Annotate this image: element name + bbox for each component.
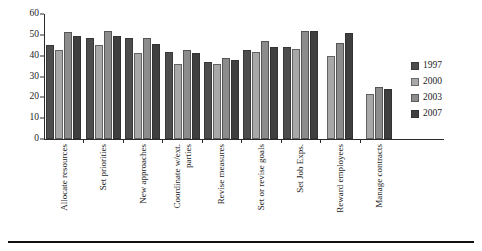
bar [213,64,221,139]
bar [292,49,300,139]
x-axis-label: Allocate resources [58,144,69,211]
x-axis-label-cell: Coordinate w/ext.parties [162,142,201,237]
bar [113,36,121,139]
plot-area: 0102030405060 [44,14,399,139]
bar-chart: 0102030405060 Allocate resourcesSet prio… [0,0,482,251]
bar [165,52,173,140]
bar [336,43,344,139]
legend-item: 2000 [411,74,473,90]
x-axis-line [44,139,444,140]
x-axis-label: Manage contracts [374,144,385,208]
bar-group [202,14,241,139]
bar-group [162,14,201,139]
chart-legend: 1997200020032007 [411,58,473,122]
x-axis-label-cell: Revise measures [202,142,241,237]
bar [204,62,212,139]
bottom-rule [8,241,474,243]
bar-group [360,14,399,139]
bar [222,58,230,139]
bar [243,50,251,139]
bar [366,94,374,139]
legend-item: 2003 [411,90,473,106]
bar-group [44,14,83,139]
bar [327,56,335,139]
bar [301,31,309,139]
bar-group [320,14,359,139]
x-axis-labels: Allocate resourcesSet prioritiesNew appr… [44,142,399,237]
legend-swatch-icon [411,62,419,70]
x-axis-label-cell: Set priorities [83,142,122,237]
x-axis-label-cell: Manage contracts [360,142,399,237]
bar [231,60,239,139]
bar [384,89,392,139]
bar [104,31,112,139]
bar [310,31,318,139]
x-axis-label: Set or revise goals [256,144,267,210]
x-axis-label: Revise measures [216,144,227,204]
bar-group [241,14,280,139]
bar [152,44,160,139]
bar [192,53,200,139]
bar [183,50,191,139]
x-axis-label: Reward employees [335,144,346,213]
x-axis-label: New approaches [137,144,148,204]
legend-label: 2007 [423,109,442,119]
bar [73,36,81,139]
legend-label: 2000 [423,77,442,87]
bar-group [123,14,162,139]
x-axis-label: Set priorities [98,144,109,190]
x-axis-label: Coordinate w/ext.parties [172,144,193,209]
x-axis-label-cell: Set Job Exps. [281,142,320,237]
x-axis-label: Set Job Exps. [295,144,306,193]
legend-item: 2007 [411,106,473,122]
bar [270,47,278,139]
bar-group [281,14,320,139]
bar [283,47,291,139]
legend-label: 1997 [423,61,442,71]
bar [345,33,353,139]
legend-swatch-icon [411,78,419,86]
bar-group [83,14,122,139]
bar [375,87,383,139]
bar [55,50,63,139]
legend-label: 2003 [423,93,442,103]
bar [95,45,103,139]
bar [174,64,182,139]
bar [125,38,133,139]
bar [261,41,269,139]
bar-groups [44,14,399,139]
bar [252,52,260,140]
bar [143,38,151,139]
x-axis-label-cell: New approaches [123,142,162,237]
x-axis-label-cell: Reward employees [320,142,359,237]
legend-swatch-icon [411,110,419,118]
bar [64,32,72,139]
legend-item: 1997 [411,58,473,74]
bar [86,38,94,139]
x-axis-label-cell: Allocate resources [44,142,83,237]
legend-swatch-icon [411,94,419,102]
x-axis-label-cell: Set or revise goals [241,142,280,237]
bar [134,53,142,139]
bar [46,45,54,139]
